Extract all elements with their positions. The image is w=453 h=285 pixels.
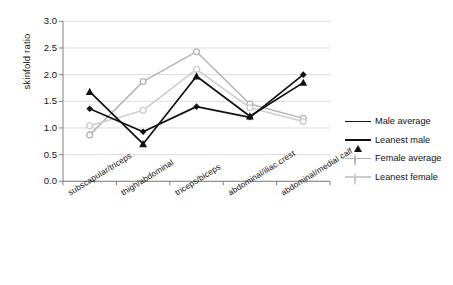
- data-point-marker: [193, 72, 201, 79]
- y-axis-title: skinfold ratio: [21, 0, 32, 132]
- legend-label-female-average: Female average: [375, 153, 441, 163]
- data-point-marker: [87, 123, 93, 129]
- series-female-average: [87, 49, 306, 138]
- chart-figure: skinfold ratio 0.00.51.01.52.02.53.0 sub…: [0, 0, 453, 285]
- data-point-marker: [247, 105, 253, 111]
- data-point-marker: [140, 128, 147, 135]
- data-point-marker: [140, 79, 146, 85]
- legend-swatch-leanest-female: [345, 171, 371, 183]
- legend-item-leanest-male[interactable]: Leanest male: [345, 131, 441, 150]
- y-tick-label: 1.5: [31, 96, 57, 106]
- y-tick-label: 1.0: [31, 123, 57, 133]
- data-point-marker: [300, 119, 306, 125]
- data-point-marker: [87, 132, 93, 138]
- circle-marker-icon: [354, 154, 356, 166]
- data-point-marker: [86, 88, 94, 95]
- data-point-marker: [299, 79, 307, 86]
- legend-swatch-female-average: [345, 152, 371, 164]
- data-point-marker: [194, 49, 200, 55]
- triangle-marker-icon: [354, 135, 362, 152]
- y-tick-label: 3.0: [31, 16, 57, 26]
- legend-label-leanest-male: Leanest male: [375, 135, 430, 145]
- chart-legend: Male average Leanest male Female average…: [345, 112, 441, 186]
- data-point-marker: [140, 107, 146, 113]
- y-tick-label: 0.5: [31, 150, 57, 160]
- y-tick-label: 2.0: [31, 70, 57, 80]
- data-point-marker: [86, 105, 93, 112]
- legend-item-leanest-female[interactable]: Leanest female: [345, 168, 441, 187]
- y-tick-label: 2.5: [31, 43, 57, 53]
- legend-swatch-male-average: [345, 115, 371, 127]
- circle-marker-icon: [354, 173, 356, 185]
- data-point-marker: [194, 66, 200, 72]
- legend-label-leanest-female: Leanest female: [375, 172, 438, 182]
- y-tick-label: 0.0: [31, 176, 57, 186]
- data-point-marker: [193, 103, 200, 110]
- legend-item-male-average[interactable]: Male average: [345, 112, 441, 131]
- legend-swatch-leanest-male: [345, 134, 371, 146]
- series-male-average: [86, 71, 306, 135]
- legend-label-male-average: Male average: [375, 116, 431, 126]
- legend-item-female-average[interactable]: Female average: [345, 149, 441, 168]
